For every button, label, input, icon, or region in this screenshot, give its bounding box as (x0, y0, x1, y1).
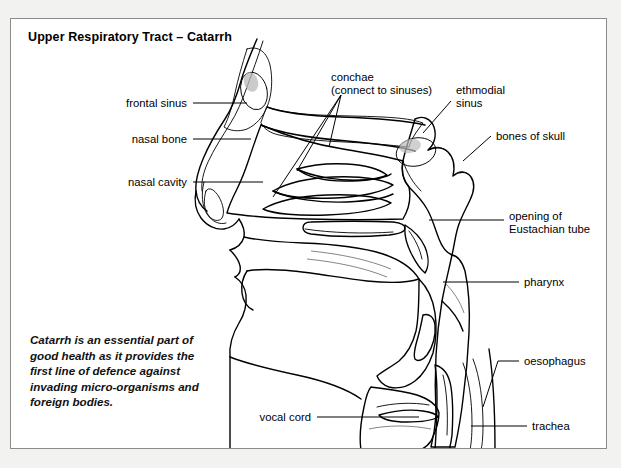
head-profile-outline (196, 39, 263, 211)
leader-conchae-2 (329, 95, 341, 147)
label-frontal-sinus: frontal sinus (126, 97, 187, 109)
diagram-panel: Upper Respiratory Tract – Catarrh (10, 18, 607, 449)
label-trachea: trachea (532, 420, 570, 432)
nasal-cavity-mucosa (227, 125, 410, 220)
leader-bones-of-skull (463, 136, 491, 161)
label-oesophagus: oesophagus (524, 355, 586, 367)
label-ethmodial-sinus-sub: sinus (456, 97, 483, 109)
leader-ethmodial-sinus (423, 101, 451, 133)
nose-and-nostril (195, 182, 244, 250)
label-nasal-bone: nasal bone (132, 133, 187, 145)
leader-conchae-3 (273, 95, 341, 197)
caption-text: Catarrh is an essential part of good hea… (30, 332, 215, 410)
leader-lines (193, 95, 527, 426)
label-vocal-cord: vocal cord (260, 411, 312, 423)
leader-conchae-1 (297, 95, 341, 171)
tongue-and-mouth (230, 237, 419, 357)
hard-palate (303, 221, 428, 273)
label-opening-of-eustachian-tube: opening of (509, 210, 563, 222)
page-background: Upper Respiratory Tract – Catarrh (0, 0, 621, 468)
label-ethmodial-sinus: ethmodial (456, 84, 505, 96)
oesophagus-tube (463, 359, 483, 449)
label-pharynx: pharynx (524, 276, 565, 288)
neck-outline (230, 349, 495, 449)
label-conchae: conchae (331, 71, 374, 83)
vocal-cord-structure (379, 410, 438, 422)
label-opening-of-eustachian-tube-sub: Eustachian tube (509, 223, 590, 235)
label-nasal-cavity: nasal cavity (128, 176, 187, 188)
trachea-tube (435, 365, 453, 449)
label-bones-of-skull: bones of skull (496, 130, 565, 142)
label-conchae-sub: (connect to sinuses) (331, 84, 432, 96)
leader-oesophagus (483, 361, 519, 407)
larynx-and-vocal-cord (360, 279, 439, 449)
